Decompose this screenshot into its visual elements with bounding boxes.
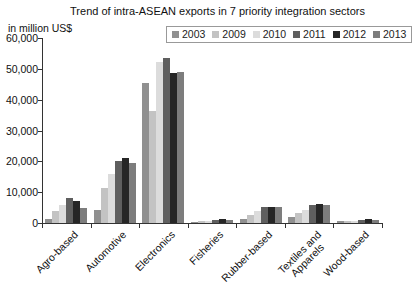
y-tick-label: 30,000 bbox=[2, 125, 38, 137]
bar-2010-automotive bbox=[108, 174, 115, 223]
bar-2010-rubber-based bbox=[254, 211, 261, 223]
bar-2013-electronics bbox=[177, 72, 184, 223]
y-tick-label: 20,000 bbox=[2, 155, 38, 167]
x-tick-mark bbox=[285, 224, 286, 228]
y-tick-mark bbox=[38, 192, 42, 193]
bar-2013-textiles-and bbox=[323, 205, 330, 223]
y-tick-label: 50,000 bbox=[2, 63, 38, 75]
bar-2011-textiles-and bbox=[309, 205, 316, 223]
chart-title: Trend of intra-ASEAN exports in 7 priori… bbox=[30, 5, 405, 17]
y-tick-mark bbox=[38, 69, 42, 70]
legend-item-2011: 2011 bbox=[293, 29, 326, 40]
legend-swatch-2009 bbox=[212, 31, 219, 38]
bar-2013-fisheries bbox=[226, 220, 233, 223]
bar-2009-agro-based bbox=[52, 211, 59, 223]
legend-swatch-2011 bbox=[293, 31, 300, 38]
bar-2003-textiles-and bbox=[288, 217, 295, 223]
bar-2009-textiles-and bbox=[295, 213, 302, 223]
bar-2013-automotive bbox=[129, 163, 136, 223]
bar-2009-wood-based bbox=[344, 221, 351, 223]
x-tick-mark bbox=[236, 224, 237, 228]
y-tick-mark bbox=[38, 38, 42, 39]
legend-year-label: 2012 bbox=[343, 29, 366, 40]
bar-2011-automotive bbox=[115, 161, 122, 223]
bar-2003-automotive bbox=[94, 210, 101, 223]
y-tick-label: 60,000 bbox=[2, 32, 38, 44]
bar-2010-wood-based bbox=[351, 221, 358, 223]
bar-2011-agro-based bbox=[66, 198, 73, 223]
x-category-label: Fisheries bbox=[188, 229, 226, 267]
bar-2013-agro-based bbox=[80, 208, 87, 223]
bar-2012-electronics bbox=[170, 73, 177, 223]
bar-2011-wood-based bbox=[358, 220, 365, 223]
bar-2010-electronics bbox=[156, 62, 163, 223]
bar-2003-fisheries bbox=[191, 222, 198, 223]
bar-2009-rubber-based bbox=[247, 215, 254, 223]
x-category-label: Electronics bbox=[133, 229, 177, 273]
y-axis bbox=[42, 38, 43, 224]
y-tick-mark bbox=[38, 131, 42, 132]
x-tick-mark bbox=[333, 224, 334, 228]
bar-2011-rubber-based bbox=[261, 207, 268, 223]
bar-2012-textiles-and bbox=[316, 204, 323, 223]
legend-item-2003: 2003 bbox=[172, 29, 205, 40]
legend-year-label: 2013 bbox=[383, 29, 406, 40]
bar-2012-automotive bbox=[122, 158, 129, 223]
bar-2013-wood-based bbox=[372, 220, 379, 223]
bar-2003-electronics bbox=[142, 83, 149, 223]
legend-swatch-2013 bbox=[373, 31, 380, 38]
y-tick-mark bbox=[38, 100, 42, 101]
x-category-label: Wood-based bbox=[322, 229, 372, 279]
bar-2009-automotive bbox=[101, 188, 108, 223]
bar-2003-agro-based bbox=[45, 219, 52, 223]
legend-year-label: 2003 bbox=[182, 29, 205, 40]
legend-item-2010: 2010 bbox=[253, 29, 286, 40]
y-tick-mark bbox=[38, 161, 42, 162]
y-tick-label: 0 bbox=[2, 217, 38, 229]
bar-2009-electronics bbox=[149, 111, 156, 223]
x-tick-mark bbox=[188, 224, 189, 228]
legend-swatch-2010 bbox=[253, 31, 260, 38]
x-category-label: Rubber-based bbox=[220, 229, 275, 284]
legend-year-label: 2009 bbox=[222, 29, 245, 40]
x-tick-mark bbox=[382, 224, 383, 228]
x-axis bbox=[42, 223, 383, 224]
legend-swatch-2003 bbox=[172, 31, 179, 38]
bar-2011-electronics bbox=[163, 58, 170, 223]
legend: 200320092010201120122013 bbox=[166, 26, 412, 43]
x-category-label: Textiles and Apparels bbox=[276, 229, 331, 284]
y-tick-label: 10,000 bbox=[2, 186, 38, 198]
legend-year-label: 2010 bbox=[263, 29, 286, 40]
bar-2012-rubber-based bbox=[268, 207, 275, 223]
legend-year-label: 2011 bbox=[303, 29, 326, 40]
bar-2012-agro-based bbox=[73, 201, 80, 223]
bar-2012-wood-based bbox=[365, 219, 372, 223]
bar-2013-rubber-based bbox=[275, 207, 282, 223]
bar-2010-textiles-and bbox=[302, 210, 309, 223]
legend-item-2009: 2009 bbox=[212, 29, 245, 40]
bar-2012-fisheries bbox=[219, 219, 226, 223]
legend-item-2012: 2012 bbox=[333, 29, 366, 40]
bar-2010-agro-based bbox=[59, 205, 66, 223]
chart-figure: Trend of intra-ASEAN exports in 7 priori… bbox=[0, 0, 413, 288]
bar-2003-rubber-based bbox=[240, 219, 247, 223]
legend-item-2013: 2013 bbox=[373, 29, 406, 40]
x-tick-mark bbox=[139, 224, 140, 228]
bar-2011-fisheries bbox=[212, 220, 219, 223]
bar-2009-fisheries bbox=[198, 221, 205, 223]
legend-swatch-2012 bbox=[333, 31, 340, 38]
bar-2003-wood-based bbox=[337, 221, 344, 223]
x-category-label: Automotive bbox=[84, 229, 129, 274]
y-tick-label: 40,000 bbox=[2, 94, 38, 106]
x-tick-mark bbox=[91, 224, 92, 228]
bar-2010-fisheries bbox=[205, 221, 212, 223]
x-category-label: Agro-based bbox=[34, 229, 80, 275]
x-tick-mark bbox=[42, 224, 43, 228]
